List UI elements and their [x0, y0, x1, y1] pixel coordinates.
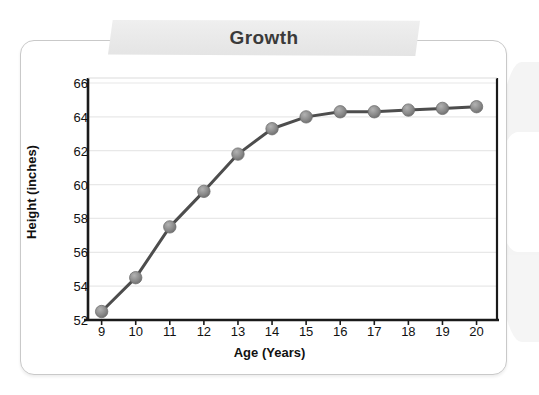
data-point-marker [164, 221, 176, 233]
x-tick-label: 13 [223, 324, 253, 339]
data-line [102, 107, 477, 312]
x-tick-label: 20 [462, 324, 492, 339]
data-point-marker [334, 106, 346, 118]
data-point-marker [130, 271, 142, 283]
x-axis-title: Age (Years) [0, 345, 539, 360]
y-tick-label: 56 [54, 245, 88, 260]
data-point-marker [198, 185, 210, 197]
chart-title: Growth [230, 27, 299, 49]
y-tick-label: 66 [54, 76, 88, 91]
data-point-marker [368, 106, 380, 118]
y-tick-label: 62 [54, 143, 88, 158]
data-point-marker [266, 123, 278, 135]
data-point-marker [436, 102, 448, 114]
data-point-marker [232, 148, 244, 160]
data-point-marker [300, 111, 312, 123]
x-axis-tick-labels: 91011121314151617181920 [0, 324, 539, 344]
data-point-marker [402, 104, 414, 116]
x-tick-label: 17 [359, 324, 389, 339]
x-tick-label: 19 [427, 324, 457, 339]
x-tick-label: 12 [189, 324, 219, 339]
data-point-marker [470, 101, 482, 113]
x-tick-label: 16 [325, 324, 355, 339]
x-tick-label: 15 [291, 324, 321, 339]
y-tick-label: 58 [54, 211, 88, 226]
y-tick-label: 54 [54, 279, 88, 294]
x-tick-label: 11 [155, 324, 185, 339]
y-tick-label: 60 [54, 177, 88, 192]
x-tick-label: 10 [121, 324, 151, 339]
x-tick-label: 9 [87, 324, 117, 339]
chart-plot-area: 5254565860626466 91011121314151617181920… [0, 0, 539, 395]
x-tick-label: 14 [257, 324, 287, 339]
screenshot-root: Growth 5254565860626466 9101112131415161… [0, 0, 539, 395]
chart-title-banner: Growth [108, 20, 420, 56]
data-point-marker [95, 305, 107, 317]
x-tick-label: 18 [393, 324, 423, 339]
y-tick-label: 64 [54, 109, 88, 124]
y-axis-title: Height (inches) [24, 0, 39, 112]
